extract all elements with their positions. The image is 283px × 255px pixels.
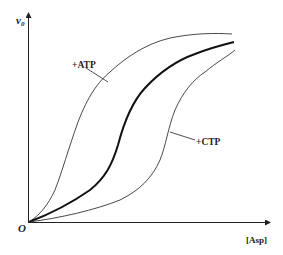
atp-leader-line: [86, 68, 108, 82]
atp-label: +ATP: [72, 60, 96, 70]
allosteric-kinetics-diagram: +ATP +CTP v0 O [Asp]: [0, 0, 283, 255]
y-axis-label: v0: [16, 14, 25, 28]
ctp-leader-line: [170, 132, 195, 140]
x-axis-label: [Asp]: [246, 235, 267, 245]
curve-control: [29, 42, 234, 222]
curve-ctp: [29, 50, 235, 222]
origin-label: O: [18, 222, 26, 234]
ctp-label: +CTP: [196, 137, 221, 147]
y-axis-label-sub: 0: [21, 20, 25, 28]
